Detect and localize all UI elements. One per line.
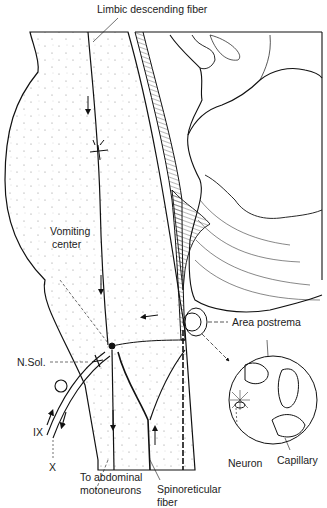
label-capillary: Capillary bbox=[277, 454, 318, 466]
label-x: X bbox=[49, 461, 56, 473]
label-vomiting-center-2: center bbox=[52, 238, 81, 250]
brainstem-body bbox=[5, 32, 195, 470]
label-ix: IX bbox=[33, 426, 43, 438]
label-abdominal-1: To abdominal bbox=[80, 471, 142, 483]
label-vomiting-center-1: Vomiting bbox=[50, 225, 90, 237]
label-spinoreticular-1: Spinoreticular bbox=[157, 483, 221, 495]
label-area-postrema: Area postrema bbox=[232, 316, 301, 328]
label-spinoreticular-2: fiber bbox=[157, 496, 177, 508]
label-limbic-fiber: Limbic descending fiber bbox=[97, 3, 207, 15]
label-n-sol: N.Sol. bbox=[17, 356, 46, 368]
area-postrema bbox=[183, 308, 228, 360]
label-abdominal-2: motoneurons bbox=[80, 484, 141, 496]
label-neuron: Neuron bbox=[228, 457, 262, 469]
magnified-inset bbox=[229, 340, 317, 450]
